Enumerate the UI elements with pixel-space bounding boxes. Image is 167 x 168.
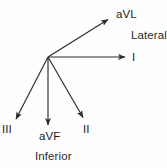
- lead-axis-ii: [48, 57, 83, 118]
- lead-vector-arrows: [0, 0, 167, 168]
- region-label-inferior: Inferior: [35, 151, 72, 163]
- ecg-lead-vector-diagram: aVL I II aVF III Lateral Inferior: [0, 0, 167, 168]
- lead-axis-iii: [16, 57, 48, 119]
- lead-label-i: I: [132, 52, 135, 64]
- lead-label-avf: aVF: [39, 131, 60, 143]
- lead-label-avl: aVL: [116, 9, 137, 21]
- region-label-lateral: Lateral: [131, 30, 167, 42]
- lead-label-iii: III: [2, 124, 12, 136]
- lead-label-ii: II: [83, 124, 90, 136]
- lead-axis-avl: [48, 20, 108, 58]
